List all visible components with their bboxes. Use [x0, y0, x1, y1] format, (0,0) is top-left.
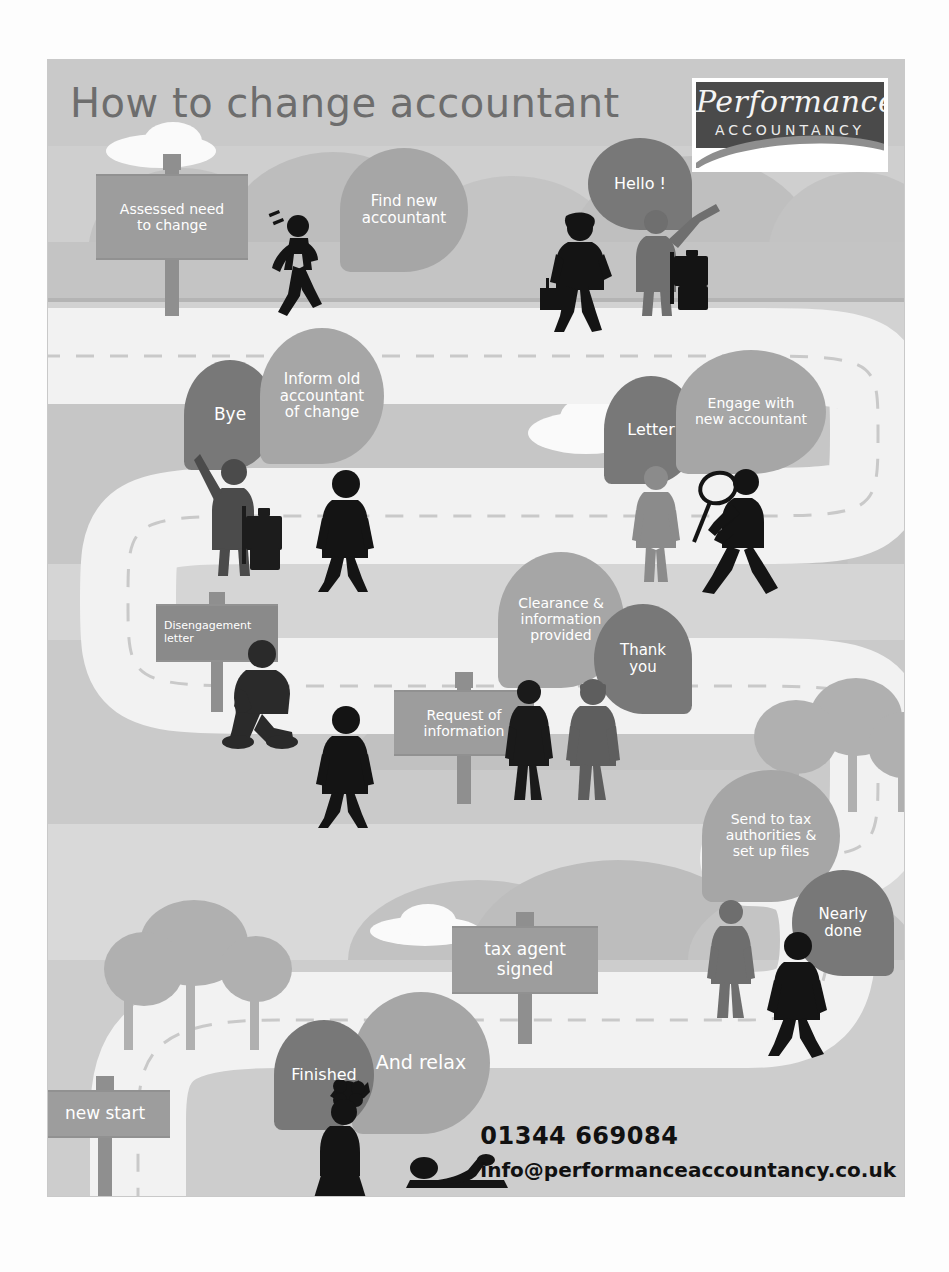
person-crouching: [218, 632, 310, 750]
logo-script-text: Performance: [696, 84, 884, 119]
company-logo: Performance ACCOUNTANCY: [692, 78, 888, 172]
contact-block: 01344 669084 info@performanceaccountancy…: [480, 1122, 896, 1182]
sign-new-start: new start: [48, 1080, 170, 1196]
person-suited-grey: [560, 674, 626, 804]
sign-assessed-need-board: Assessed need to change: [96, 174, 248, 260]
scanned-page: How to change accountant Performance ACC…: [0, 0, 949, 1272]
person-with-flowers: [296, 1080, 380, 1196]
contact-email[interactable]: info@performanceaccountancy.co.uk: [480, 1158, 896, 1182]
sign-new-start-board: new start: [48, 1090, 170, 1138]
person-walking-dark-3: [762, 926, 834, 1058]
sign-assessed-need: Assessed need to change: [96, 160, 248, 316]
bubble-engage-new-accountant: Engage with new accountant: [676, 350, 826, 474]
page-title: How to change accountant: [70, 80, 620, 126]
person-runner: [260, 208, 330, 318]
tree-cluster-left: [104, 900, 304, 1050]
person-standing-grey: [626, 460, 686, 584]
person-walking-dark-1: [310, 464, 382, 594]
person-businessman-briefcase: [540, 212, 620, 336]
person-suited-dark: [498, 674, 560, 804]
person-walking-grey: [700, 894, 762, 1022]
person-with-net: [684, 460, 794, 596]
contact-phone[interactable]: 01344 669084: [480, 1122, 896, 1150]
infographic-poster: How to change accountant Performance ACC…: [48, 60, 904, 1196]
sign-tax-agent-board: tax agent signed: [452, 926, 598, 994]
person-walking-dark-2: [310, 700, 382, 830]
bubble-find-new-accountant: Find new accountant: [340, 148, 468, 272]
person-traveller-waving: [194, 444, 290, 578]
person-waving-with-luggage: [626, 200, 722, 316]
